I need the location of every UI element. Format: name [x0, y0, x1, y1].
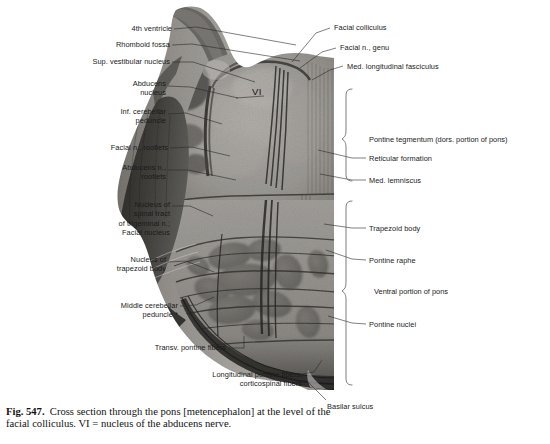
figure-number: Fig. 547.	[6, 406, 45, 417]
label-abducens-nucleus: Abducens nucleus	[58, 79, 166, 98]
label-rhomboid-fossa: Rhomboid fossa	[60, 40, 170, 49]
figure-page: 4th ventricle Rhomboid fossa Sup. vestib…	[0, 0, 550, 444]
label-med-lemniscus: Med. lemniscus	[369, 176, 519, 185]
label-facial-colliculus: Facial colliculus	[334, 23, 474, 32]
label-med-longitudinal-fasciculus: Med. longitudinal fasciculus	[347, 62, 537, 71]
label-sup-vestibular-nucleus: Sup. vestibular nucleus	[30, 57, 170, 66]
label-pontine-raphe: Pontine raphe	[369, 256, 519, 265]
label-nucleus-trapezoid-body: Nucleus of trapezoid body	[36, 255, 166, 274]
figure-caption-text: Cross section through the pons [metencep…	[6, 406, 331, 429]
label-4th-ventricle: 4th ventricle	[62, 24, 172, 33]
label-abducens-n-rootlets: Abducens n., rootlets	[50, 163, 166, 182]
label-transv-pontine-fibers: Transv. pontine fibers	[80, 343, 226, 352]
label-ventral-portion-pons: Ventral portion of pons	[374, 287, 448, 296]
figure-caption: Fig. 547. Cross section through the pons…	[6, 406, 336, 431]
label-basilar-sulcus: Basilar sulcus	[327, 402, 477, 411]
label-pontine-nuclei: Pontine nuclei	[369, 320, 519, 329]
label-longitudinal-pontine-fibers: Longitudinal pontine fibers; corticospin…	[86, 370, 302, 389]
label-facial-n-genu: Facial n., genu	[340, 43, 480, 52]
specimen-mark-vi: VI	[252, 86, 262, 97]
label-middle-cerebellar-peduncle: Middle cerebellar peduncle *	[38, 301, 178, 320]
label-pontine-tegmentum: Pontine tegmentum (dors. portion of pons…	[369, 135, 507, 144]
label-facial-n-rootlets: Facial n., rootlets	[48, 143, 168, 152]
label-nucleus-spinal-trigeminal: Nucleus of spinal tract of trigeminal n.…	[34, 200, 170, 238]
label-inf-cerebellar-peduncle: Inf. cerebellar peduncle	[48, 107, 166, 126]
label-reticular-formation: Reticular formation	[369, 154, 519, 163]
label-trapezoid-body: Trapezoid body	[369, 224, 519, 233]
